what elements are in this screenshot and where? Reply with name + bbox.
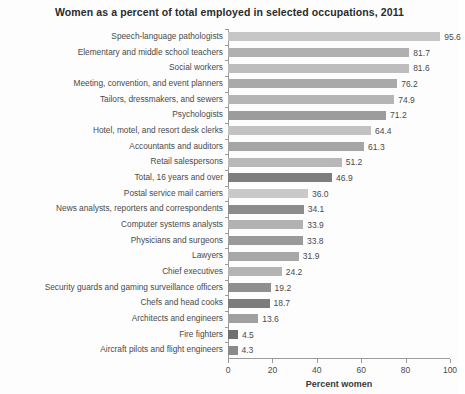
category-label: Computer systems analysts <box>6 219 228 229</box>
y-axis-tick <box>225 264 228 265</box>
x-axis-tick-label: 60 <box>341 365 381 375</box>
bar <box>228 189 308 198</box>
category-label: Postal service mail carriers <box>6 188 228 198</box>
y-axis-tick <box>225 60 228 61</box>
y-axis-tick <box>225 139 228 140</box>
bar-row: 4.5 <box>228 330 450 339</box>
bar-row: 33.9 <box>228 220 450 229</box>
bar-value-label: 74.9 <box>394 95 415 105</box>
bar-value-label: 95.6 <box>440 32 461 42</box>
bar-value-label: 13.6 <box>258 314 279 324</box>
y-axis-tick <box>225 107 228 108</box>
category-label: Meeting, convention, and event planners <box>6 78 228 88</box>
bar <box>228 299 270 308</box>
bar-row: 76.2 <box>228 79 450 88</box>
category-label: Speech-language pathologists <box>6 31 228 41</box>
category-label: Physicians and surgeons <box>6 235 228 245</box>
chart-title: Women as a percent of total employed in … <box>0 6 459 18</box>
bar <box>228 142 364 151</box>
x-axis-tick-label: 100 <box>430 365 465 375</box>
bar-row: 61.3 <box>228 142 450 151</box>
category-label: News analysts, reporters and corresponde… <box>6 203 228 213</box>
bar <box>228 267 282 276</box>
bar <box>228 111 386 120</box>
category-label: Chief executives <box>6 266 228 276</box>
x-axis-tick <box>317 359 318 363</box>
bar-value-label: 51.2 <box>342 157 363 167</box>
y-axis-tick <box>225 45 228 46</box>
bar <box>228 126 371 135</box>
bar-value-label: 19.2 <box>271 283 292 293</box>
bar <box>228 236 303 245</box>
x-axis-line <box>228 358 450 359</box>
bar-row: 64.4 <box>228 126 450 135</box>
x-axis-tick <box>361 359 362 363</box>
bar-row: 18.7 <box>228 299 450 308</box>
y-axis-tick <box>225 123 228 124</box>
bar-value-label: 24.2 <box>282 267 303 277</box>
y-axis-tick <box>225 76 228 77</box>
bar-row: 71.2 <box>228 111 450 120</box>
y-axis-tick <box>225 342 228 343</box>
bar <box>228 64 409 73</box>
plot-area: 95.681.781.676.274.971.264.461.351.246.9… <box>228 29 450 358</box>
x-axis-title: Percent women <box>228 379 450 389</box>
category-axis-labels: Speech-language pathologistsElementary a… <box>1 29 228 358</box>
category-label: Retail salespersons <box>6 156 228 166</box>
y-axis-tick <box>225 92 228 93</box>
y-axis-tick <box>225 248 228 249</box>
bar-value-label: 4.3 <box>238 345 254 355</box>
x-axis-tick <box>450 359 451 363</box>
category-label: Social workers <box>6 62 228 72</box>
category-label: Hotel, motel, and resort desk clerks <box>6 125 228 135</box>
y-axis-tick <box>225 311 228 312</box>
category-label: Accountants and auditors <box>6 141 228 151</box>
bar-value-label: 18.7 <box>270 298 291 308</box>
bar <box>228 95 394 104</box>
bar-value-label: 34.1 <box>304 204 325 214</box>
bar-value-label: 76.2 <box>397 79 418 89</box>
bar-row: 81.7 <box>228 48 450 57</box>
y-axis-tick <box>225 186 228 187</box>
bar-value-label: 4.5 <box>238 330 254 340</box>
x-axis-tick <box>272 359 273 363</box>
bar-row: 95.6 <box>228 32 450 41</box>
bar-value-label: 31.9 <box>299 251 320 261</box>
x-axis-tick-label: 80 <box>386 365 426 375</box>
category-label: Total, 16 years and over <box>6 172 228 182</box>
category-label: Tailors, dressmakers, and sewers <box>6 94 228 104</box>
x-axis-tick-label: 40 <box>297 365 337 375</box>
bar-value-label: 81.6 <box>409 63 430 73</box>
bar <box>228 79 397 88</box>
bar-value-label: 61.3 <box>364 142 385 152</box>
bar <box>228 173 332 182</box>
x-axis-tick-label: 20 <box>252 365 292 375</box>
bar-row: 34.1 <box>228 205 450 214</box>
bar-row: 36.0 <box>228 189 450 198</box>
y-axis-tick <box>225 170 228 171</box>
bar <box>228 252 299 261</box>
bar-value-label: 36.0 <box>308 189 329 199</box>
x-axis-tick <box>228 359 229 363</box>
category-label: Elementary and middle school teachers <box>6 47 228 57</box>
category-label: Architects and engineers <box>6 313 228 323</box>
bar-value-label: 81.7 <box>409 48 430 58</box>
y-axis-tick <box>225 327 228 328</box>
bar-row: 13.6 <box>228 314 450 323</box>
bar-value-label: 64.4 <box>371 126 392 136</box>
bar-value-label: 33.8 <box>303 236 324 246</box>
bar-row: 31.9 <box>228 252 450 261</box>
bar <box>228 32 440 41</box>
y-axis-tick <box>225 154 228 155</box>
category-label: Security guards and gaming surveillance … <box>6 282 228 292</box>
bar-row: 24.2 <box>228 267 450 276</box>
bar-value-label: 33.9 <box>303 220 324 230</box>
bar-row: 4.3 <box>228 346 450 355</box>
bar-value-label: 46.9 <box>332 173 353 183</box>
y-axis-tick <box>225 217 228 218</box>
bar-value-label: 71.2 <box>386 110 407 120</box>
bar <box>228 158 342 167</box>
y-axis-tick <box>225 233 228 234</box>
bar-row: 74.9 <box>228 95 450 104</box>
